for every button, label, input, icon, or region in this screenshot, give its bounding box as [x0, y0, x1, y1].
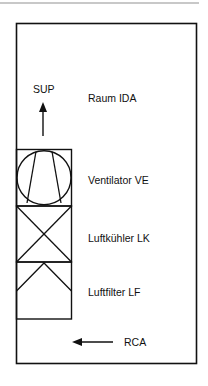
component-label-lf: Luftfilter LF: [88, 286, 141, 298]
return-label: RCA: [124, 336, 146, 348]
fan-icon: [17, 150, 72, 207]
cooler-icon: [17, 206, 72, 262]
supply-label: SUP: [33, 83, 55, 95]
return-arrow-icon: [72, 338, 113, 346]
room-boundary: [17, 24, 197, 364]
component-label-ve: Ventilator VE: [88, 174, 149, 186]
room-label: Raum IDA: [88, 92, 136, 104]
filter-icon: [17, 262, 72, 319]
diagram-canvas: [0, 0, 208, 386]
supply-arrow-icon: [39, 102, 47, 136]
component-label-lk: Luftkühler LK: [88, 232, 150, 244]
